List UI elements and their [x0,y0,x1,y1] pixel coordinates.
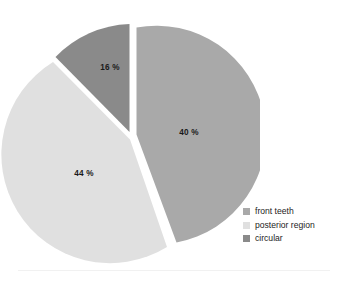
legend-item-circular[interactable]: circular [243,232,343,245]
pie-chart-plot-area: 40 % 44 % 16 % [0,0,260,272]
legend-swatch-posterior-region [243,222,250,229]
slice-label-posterior-region: 44 % [74,169,94,178]
legend-label-posterior-region: posterior region [255,219,315,232]
legend-item-front-teeth[interactable]: front teeth [243,205,343,218]
legend-label-circular: circular [255,232,283,245]
legend-swatch-circular [243,235,250,242]
slice-label-circular: 16 % [100,63,120,72]
legend-swatch-front-teeth [243,208,250,215]
legend-item-posterior-region[interactable]: posterior region [243,219,343,232]
legend-label-front-teeth: front teeth [255,205,294,218]
chart-legend: front teeth posterior region circular [243,205,343,246]
slice-label-front-teeth: 40 % [179,128,199,137]
bottom-divider [18,270,330,271]
pie-chart-figure: 40 % 44 % 16 % front teeth posterior reg… [0,0,346,281]
pie-chart-svg: 40 % 44 % 16 % [0,0,260,272]
